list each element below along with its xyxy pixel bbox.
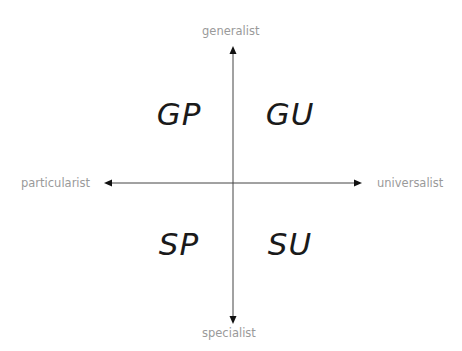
quadrant-top-left: GP	[157, 96, 202, 132]
arrow-up-icon	[230, 46, 237, 54]
arrow-right-icon	[354, 180, 362, 187]
axis-label-left: particularist	[21, 176, 90, 190]
quadrant-bottom-left: SP	[159, 226, 199, 262]
arrow-left-icon	[104, 180, 112, 187]
axis-label-right: universalist	[377, 176, 443, 190]
axis-label-top: generalist	[202, 24, 259, 38]
quadrant-top-right: GU	[266, 96, 315, 132]
axis-label-bottom: specialist	[202, 326, 256, 340]
arrow-down-icon	[230, 316, 237, 324]
quadrant-bottom-right: SU	[268, 226, 312, 262]
